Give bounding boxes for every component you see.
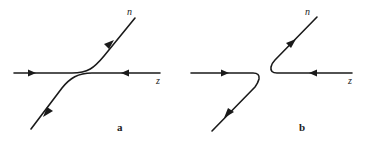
panel-a: n z a xyxy=(14,6,160,133)
label-n-a: n xyxy=(127,6,132,17)
panel-label-b: b xyxy=(299,121,305,133)
diagram-canvas: n z a n z b xyxy=(0,0,366,144)
label-n-b: n xyxy=(305,6,310,17)
arrow-left-icon xyxy=(121,70,129,77)
trajectory-a-upper xyxy=(14,18,135,73)
arrow-left-icon xyxy=(309,70,317,77)
panel-label-a: a xyxy=(117,121,123,133)
arrow-right-icon xyxy=(221,70,229,77)
trajectory-b-right xyxy=(271,17,352,73)
arrow-right-icon xyxy=(28,70,36,77)
panel-b: n z b xyxy=(191,6,352,133)
label-z-b: z xyxy=(347,75,352,86)
trajectory-a-lower xyxy=(31,73,160,129)
label-z-a: z xyxy=(155,75,160,86)
trajectory-b-left xyxy=(191,73,259,131)
